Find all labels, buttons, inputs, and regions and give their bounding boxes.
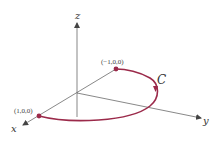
point-1-0-0 (37, 114, 42, 119)
y-axis (77, 93, 201, 118)
curve-label: C (157, 73, 166, 87)
x-axis-label: x (11, 123, 17, 134)
point-label-1-0-0: (1,0,0) (14, 107, 33, 115)
point-label-neg1-0-0: (−1,0,0) (101, 58, 124, 66)
y-axis-label: y (202, 115, 209, 126)
curve-c (39, 69, 158, 121)
point-neg1-0-0 (114, 67, 119, 72)
z-axis-label: z (74, 10, 81, 21)
curve-diagram: z x y C (1,0,0) (−1,0,0) (0, 0, 214, 144)
